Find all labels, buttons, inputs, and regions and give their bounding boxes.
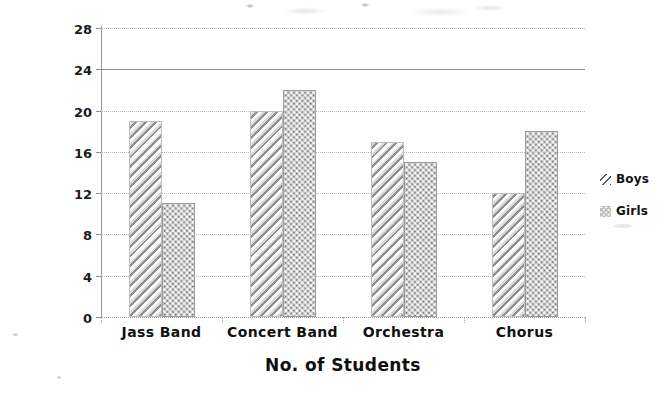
legend-item-girls: Girls [600,200,662,222]
category-tick [585,317,586,323]
x-tick-label-jass-band: Jass Band [101,324,222,348]
bar-jass-band-girls [162,203,195,317]
bar-jass-band-boys [129,121,162,317]
y-tick-label-12: 12 [74,187,92,202]
category-tick [222,317,223,323]
bar-group-concert-band [222,28,343,317]
legend: Boys Girls [600,168,662,232]
scan-artifact [190,0,520,16]
y-tick-label-8: 8 [83,228,92,243]
bar-orchestra-girls [404,162,437,317]
legend-swatch-boys-icon [600,174,611,185]
y-tick-label-4: 4 [83,269,92,284]
bar-concert-band-boys [250,111,283,317]
plot-area: 28 24 20 16 12 8 4 0 [101,28,585,317]
bar-concert-band-girls [283,90,316,317]
bar-group-chorus [464,28,585,317]
bar-chorus-boys [492,193,525,317]
y-tick-label-28: 28 [74,22,92,37]
bar-chart: Music Activity 28 24 20 16 12 8 [0,0,665,402]
x-tick-label-chorus: Chorus [464,324,585,348]
bar-groups [101,28,585,317]
y-tick-label-0: 0 [83,311,92,326]
x-tick-label-orchestra: Orchestra [343,324,464,348]
bar-group-jass-band [101,28,222,317]
legend-swatch-girls-icon [600,206,611,217]
category-tick [343,317,344,323]
x-axis-category-labels: Jass Band Concert Band Orchestra Chorus [101,324,585,348]
scan-speck [13,333,18,336]
x-tick-label-concert-band: Concert Band [222,324,343,348]
bar-orchestra-boys [371,142,404,317]
bar-chorus-girls [525,131,558,317]
y-tick-label-24: 24 [74,63,92,78]
legend-label-girls: Girls [616,204,648,218]
category-tick [464,317,465,323]
legend-item-boys: Boys [600,168,662,190]
category-tick [101,317,102,323]
y-tick-label-16: 16 [74,145,92,160]
bar-group-orchestra [343,28,464,317]
legend-label-boys: Boys [616,172,649,186]
scan-speck [57,376,61,379]
y-tick-label-20: 20 [74,104,92,119]
x-axis-title: No. of Students [101,355,585,375]
